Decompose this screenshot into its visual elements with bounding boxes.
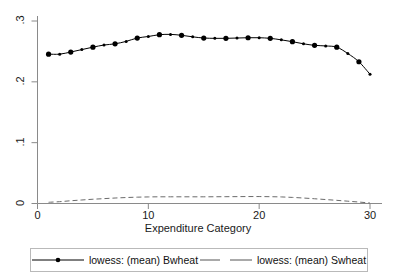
x-axis-title: Expenditure Category (0, 222, 396, 234)
x-axis-ticks (38, 204, 371, 210)
x-tick-label-3: 30 (357, 209, 383, 221)
y-tick-label-3: .3 (14, 9, 26, 31)
chart-legend: lowess: (mean) Bwheat lowess: (mean) Swh… (30, 248, 368, 272)
y-tick-label-1: .1 (14, 131, 26, 153)
legend-label-swheat: lowess: (mean) Swheat (257, 254, 366, 266)
x-tick-label-2: 20 (246, 209, 272, 221)
chart-canvas (0, 0, 396, 279)
legend-entry-swheat[interactable]: lowess: (mean) Swheat (200, 254, 366, 266)
y-tick-label-2: .2 (14, 70, 26, 92)
series-bwheat-line (49, 34, 370, 74)
plot-area: 0.1.2.3 0102030 Expenditure Category (0, 0, 396, 279)
chart-figure: 0.1.2.3 0102030 Expenditure Category low… (0, 0, 396, 279)
legend-key-swheat-icon (200, 255, 252, 265)
series-swheat-line (49, 197, 370, 203)
x-tick-label-1: 10 (135, 209, 161, 221)
legend-label-bwheat: lowess: (mean) Bwheat (89, 254, 198, 266)
legend-entry-bwheat[interactable]: lowess: (mean) Bwheat (32, 254, 198, 266)
x-tick-label-0: 0 (25, 209, 51, 221)
legend-key-bwheat-icon (32, 255, 84, 265)
y-axis-ticks (32, 21, 38, 204)
